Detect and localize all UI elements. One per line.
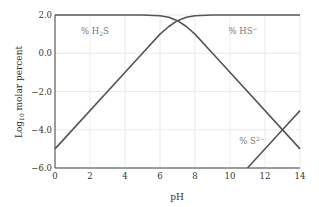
annotation-s2: % S2− [239,135,264,146]
speciation-chart: 02468101214 2.00.0−2.0−4.0−6.0 pH Log10 … [0,0,319,207]
y-tick-label: −4.0 [31,125,52,135]
x-axis-label: pH [170,192,184,202]
y-axis-label-main: Log [14,121,24,138]
annotation-h2s: % H2S [81,26,109,37]
y-axis-label-subscript: 10 [18,113,25,121]
x-tick-labels: 02468101214 [52,171,305,181]
series-annotations: % H2S % HS− % S2− [81,25,265,146]
y-tick-label: −6.0 [31,163,52,173]
x-tick-label: 6 [157,171,162,181]
y-tick-label: 0.0 [38,48,52,58]
y-tick-label: 2.0 [38,10,52,20]
y-axis-label-rest: molar percent [14,46,24,114]
x-tick-label: 8 [192,171,197,181]
y-tick-label: −2.0 [31,87,52,97]
x-tick-label: 10 [225,171,236,181]
y-axis-label: Log10 molar percent [14,46,25,139]
y-tick-labels: 2.00.0−2.0−4.0−6.0 [31,10,52,173]
x-tick-label: 14 [295,171,306,181]
x-tick-label: 2 [87,171,92,181]
x-tick-label: 12 [260,171,271,181]
x-tick-label: 0 [52,171,57,181]
x-tick-label: 4 [122,171,127,181]
annotation-hs: % HS− [228,25,257,36]
grid-lines [55,15,300,168]
